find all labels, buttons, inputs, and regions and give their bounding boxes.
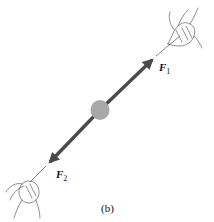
force-arrow-f1 [100,60,152,110]
diagram-canvas [0,0,214,222]
string-bottom [30,166,46,182]
force-label-f2: F2 [56,168,67,183]
force-label-f1: F1 [159,61,170,76]
force-diagram: F1 F2 (b) [0,0,214,222]
figure-caption: (b) [101,202,114,214]
force-arrow-f2 [50,110,100,162]
hand-bottom-left-icon [6,181,40,218]
ball [91,100,110,120]
